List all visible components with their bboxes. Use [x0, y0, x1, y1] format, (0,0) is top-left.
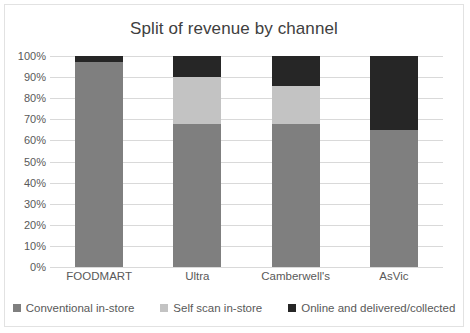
y-axis-tick-label: 20% [6, 219, 46, 231]
bar-group[interactable] [272, 56, 320, 267]
legend-label: Self scan in-store [173, 302, 262, 314]
y-axis-tick-label: 10% [6, 240, 46, 252]
bar-segment[interactable] [75, 56, 123, 62]
y-axis-tick-label: 60% [6, 134, 46, 146]
legend-item[interactable]: Self scan in-store [160, 302, 262, 314]
legend-label: Online and delivered/collected [301, 302, 455, 314]
legend-swatch-icon [160, 304, 168, 312]
y-axis-tick-label: 90% [6, 71, 46, 83]
bar-segment[interactable] [75, 62, 123, 267]
chart-frame: Split of revenue by channel 100%90%80%70… [4, 4, 464, 327]
bar-group[interactable] [370, 56, 418, 267]
y-axis-tick-label: 50% [6, 156, 46, 168]
legend-label: Conventional in-store [26, 302, 135, 314]
bar-group[interactable] [75, 56, 123, 267]
legend-swatch-icon [288, 304, 296, 312]
y-axis-tick-label: 80% [6, 92, 46, 104]
bar-segment[interactable] [173, 124, 221, 267]
chart-legend: Conventional in-storeSelf scan in-storeO… [5, 302, 463, 314]
legend-item[interactable]: Conventional in-store [13, 302, 135, 314]
bar-segment[interactable] [272, 124, 320, 267]
x-axis-tick-label: AsVic [334, 270, 454, 282]
x-axis: FOODMARTUltraCamberwell'sAsVic [50, 270, 443, 290]
bar-segment[interactable] [173, 77, 221, 123]
gridline [50, 267, 443, 268]
plot-area [50, 56, 443, 267]
y-axis-tick-label: 70% [6, 113, 46, 125]
y-axis-tick-label: 100% [6, 50, 46, 62]
legend-swatch-icon [13, 304, 21, 312]
bar-segment[interactable] [370, 130, 418, 267]
bar-segment[interactable] [370, 56, 418, 130]
y-axis-tick-label: 40% [6, 177, 46, 189]
bar-segment[interactable] [173, 56, 221, 77]
bar-segment[interactable] [272, 56, 320, 86]
bar-group[interactable] [173, 56, 221, 267]
legend-item[interactable]: Online and delivered/collected [288, 302, 455, 314]
y-axis-tick-label: 30% [6, 198, 46, 210]
y-axis: 100%90%80%70%60%50%40%30%20%10%0% [5, 56, 46, 267]
bar-segment[interactable] [272, 86, 320, 124]
chart-title: Split of revenue by channel [5, 19, 463, 39]
